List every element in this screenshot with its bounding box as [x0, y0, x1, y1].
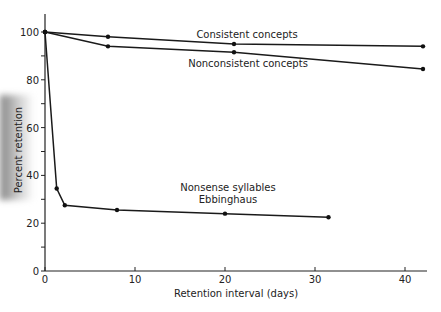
- label-nonconsistent: Nonconsistent concepts: [188, 58, 308, 69]
- y-tick-label: 100: [20, 27, 39, 38]
- y-tick-label: 40: [26, 170, 39, 181]
- data-point: [115, 208, 119, 212]
- y-tick-label: 0: [33, 266, 39, 277]
- y-tick-label: 60: [26, 123, 39, 134]
- label-consistent: Consistent concepts: [196, 29, 297, 40]
- data-point: [326, 215, 330, 219]
- data-point: [106, 44, 110, 48]
- data-point: [55, 186, 59, 190]
- label-nonsense: Nonsense syllables: [180, 182, 275, 193]
- y-tick-label: 20: [26, 218, 39, 229]
- x-tick-label: 10: [129, 274, 142, 285]
- data-point: [63, 203, 67, 207]
- data-point: [232, 50, 236, 54]
- x-ticks: 010203040: [42, 267, 412, 285]
- data-point: [106, 35, 110, 39]
- x-tick-label: 40: [399, 274, 412, 285]
- retention-chart: 020406080100 010203040 Consistent concep…: [0, 0, 441, 312]
- x-tick-label: 0: [42, 274, 48, 285]
- x-tick-label: 30: [309, 274, 322, 285]
- data-point: [232, 42, 236, 46]
- data-point: [421, 67, 425, 71]
- x-tick-label: 20: [219, 274, 232, 285]
- data-point: [421, 44, 425, 48]
- data-point: [223, 211, 227, 215]
- x-axis-label: Retention interval (days): [174, 288, 298, 299]
- data-point: [43, 30, 47, 34]
- label-ebbinghaus: Ebbinghaus: [199, 194, 258, 205]
- y-tick-label: 80: [26, 75, 39, 86]
- y-axis-label: Percent retention: [13, 107, 24, 193]
